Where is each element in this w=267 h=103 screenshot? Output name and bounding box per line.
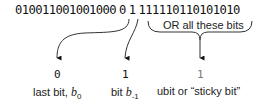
- last-bit-label: last bit, b0: [33, 85, 81, 101]
- bit-minus-1-label: bit b-1: [111, 85, 139, 101]
- brace-label: OR all these bits: [163, 19, 244, 31]
- ubit-label: ubit or “sticky bit”: [157, 85, 240, 97]
- last-bit-value: 0: [54, 68, 61, 81]
- ubit-value: 1: [197, 68, 204, 81]
- bit-minus-1-value: 1: [122, 68, 129, 81]
- arrow-last-bit: [57, 19, 129, 58]
